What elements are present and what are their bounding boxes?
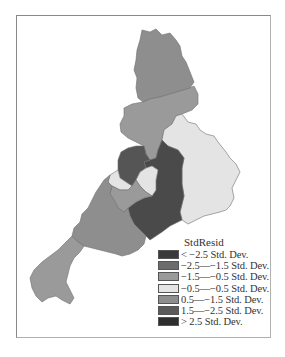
legend-label: < −2.5 Std. Dev. — [181, 249, 248, 260]
legend-swatch — [158, 306, 179, 315]
legend-label: 1.5—−2.5 Std. Dev. — [181, 305, 263, 316]
legend-swatch — [158, 317, 179, 326]
legend-swatch — [158, 261, 179, 270]
map-legend: StdResid < −2.5 Std. Dev. −2.5—−1.5 Std.… — [158, 235, 269, 327]
legend-label: 0.5—−1.5 Std. Dev. — [181, 294, 263, 305]
legend-swatch — [158, 295, 179, 304]
legend-item: −1.5—−0.5 Std. Dev. — [158, 271, 269, 282]
legend-item: 0.5—−1.5 Std. Dev. — [158, 294, 269, 305]
legend-label: −2.5—−1.5 Std. Dev. — [181, 260, 269, 271]
legend-item: 1.5—−2.5 Std. Dev. — [158, 305, 269, 316]
legend-swatch — [158, 272, 179, 281]
region-far-south-west[interactable] — [30, 236, 84, 304]
legend-label: −1.5—−0.5 Std. Dev. — [181, 271, 269, 282]
legend-label: −0.5—−0.5 Std. Dev. — [181, 283, 269, 294]
legend-swatch — [158, 250, 179, 259]
legend-item: > 2.5 Std. Dev. — [158, 316, 269, 327]
legend-label: > 2.5 Std. Dev. — [181, 316, 243, 327]
legend-title: StdResid — [184, 235, 269, 249]
legend-item: −0.5—−0.5 Std. Dev. — [158, 283, 269, 294]
legend-swatch — [158, 284, 179, 293]
legend-item: < −2.5 Std. Dev. — [158, 249, 269, 260]
legend-item: −2.5—−1.5 Std. Dev. — [158, 260, 269, 271]
